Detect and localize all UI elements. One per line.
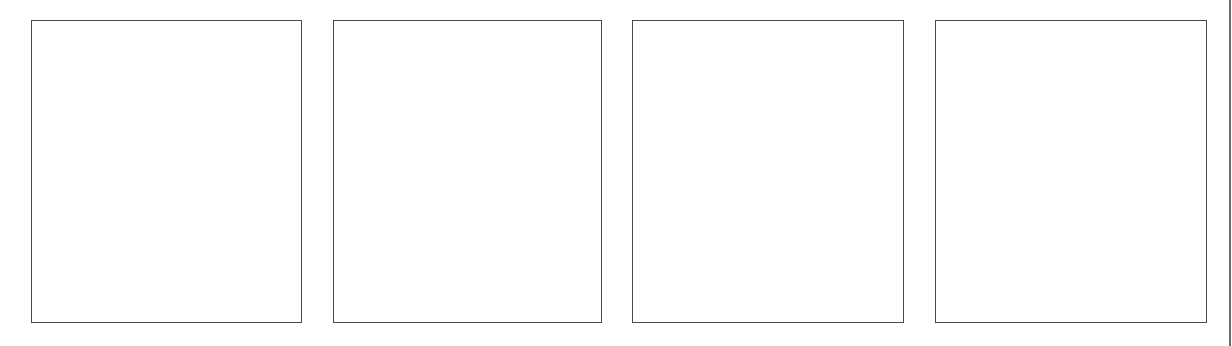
- comic-strip-template: [0, 0, 1232, 346]
- right-edge-rule: [1229, 0, 1231, 346]
- panel-4: [935, 20, 1207, 323]
- panel-1: [31, 20, 302, 323]
- panel-2: [333, 20, 602, 323]
- panel-3: [632, 20, 904, 323]
